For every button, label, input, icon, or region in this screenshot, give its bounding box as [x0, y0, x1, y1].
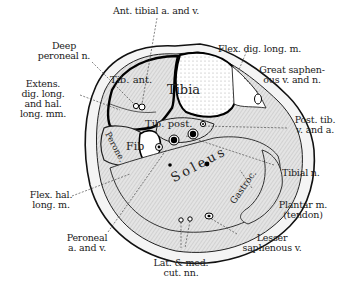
- label-line: long. mm.: [10, 109, 76, 119]
- label-line: a. and v.: [54, 243, 120, 253]
- label-line: cut. nn.: [146, 268, 216, 278]
- label-peroneal-a-v: Peroneal a. and v.: [54, 233, 120, 253]
- label-tibia: Tibia: [167, 82, 200, 97]
- label-tib-post: Tib. post.: [145, 118, 192, 129]
- label-plantar-m: Plantar m. (tendon): [270, 200, 336, 220]
- label-line: ous v. and n.: [240, 75, 344, 85]
- label-lesser-saphenous: Lesser saphenous v.: [232, 233, 312, 253]
- label-fib: Fib: [126, 140, 144, 153]
- label-great-saphenous: Great saphen- ous v. and n.: [240, 65, 344, 85]
- label-post-tib: Post. tib. v. and a.: [286, 115, 344, 135]
- label-line: v. and a.: [286, 125, 344, 135]
- label-flex-hal-long: Flex. hal. long. m.: [20, 190, 82, 210]
- label-line: peroneal n.: [34, 51, 94, 61]
- label-ant-tibial: Ant. tibial a. and v.: [113, 6, 199, 16]
- label-flex-dig-long: Flex. dig. long. m.: [218, 44, 301, 54]
- label-deep-peroneal: Deep peroneal n.: [34, 41, 94, 61]
- label-tib-ant: Tib. ant.: [110, 74, 152, 85]
- label-line: long. m.: [20, 200, 82, 210]
- label-extens-dig-long: Extens. dig. long. and hal. long. mm.: [10, 79, 76, 119]
- label-line: (tendon): [270, 210, 336, 220]
- label-line: saphenous v.: [232, 243, 312, 253]
- label-lat-med-cut: Lat. & med. cut. nn.: [146, 258, 216, 278]
- label-tibial-n: Tibial n.: [282, 168, 320, 178]
